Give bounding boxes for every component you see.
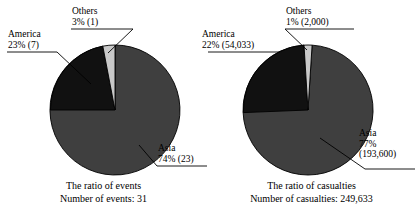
pie-label-asia-casualties-percent: 77% (359, 139, 396, 150)
chart-caption-events: The ratio of events Number of events: 31 (0, 180, 207, 205)
pie-label-asia-casualties-count: (193,600) (359, 149, 396, 160)
pie-label-asia-events: Asia 74% (23) (158, 143, 194, 164)
pie-label-others-casualties: Others 1% (2,000) (286, 6, 329, 27)
pie-label-others-events-value: 3% (1) (72, 17, 98, 28)
chart-caption-casualties-title: The ratio of casualties (208, 180, 415, 193)
pie-chart-events: Others 3% (1) America 23% (7) Asia 74% (… (0, 0, 207, 178)
pie-label-asia-events-value: 74% (23) (158, 154, 194, 165)
pie-chart-casualties: Others 1% (2,000) America 22% (54,033) A… (208, 0, 415, 178)
chart-caption-events-title: The ratio of events (0, 180, 207, 193)
pie-label-america-casualties-value: 22% (54,033) (202, 40, 254, 51)
chart-panel-casualties: Others 1% (2,000) America 22% (54,033) A… (208, 0, 415, 215)
chart-caption-events-total: Number of events: 31 (0, 193, 207, 206)
pie-chart-figure: Others 3% (1) America 23% (7) Asia 74% (… (0, 0, 415, 215)
pie-label-america-events-name: America (8, 29, 41, 40)
pie-label-others-events-name: Others (72, 6, 98, 17)
chart-panel-events: Others 3% (1) America 23% (7) Asia 74% (… (0, 0, 207, 215)
pie-label-others-casualties-value: 1% (2,000) (286, 17, 329, 28)
pie-label-asia-events-name: Asia (158, 143, 194, 154)
pie-label-others-events: Others 3% (1) (72, 6, 98, 27)
pie-label-america-events-value: 23% (7) (8, 40, 41, 51)
pie-label-others-casualties-name: Others (286, 6, 329, 17)
pie-slice-america-casualties[interactable] (243, 45, 308, 112)
pie-label-america-casualties-name: America (202, 29, 254, 40)
pie-label-america-casualties: America 22% (54,033) (202, 29, 254, 50)
pie-label-asia-casualties: Asia 77% (193,600) (359, 128, 396, 160)
pie-label-asia-casualties-name: Asia (359, 128, 396, 139)
chart-caption-casualties-total: Number of casualties: 249,633 (208, 193, 415, 206)
chart-caption-casualties: The ratio of casualties Number of casual… (208, 180, 415, 205)
pie-label-america-events: America 23% (7) (8, 29, 41, 50)
